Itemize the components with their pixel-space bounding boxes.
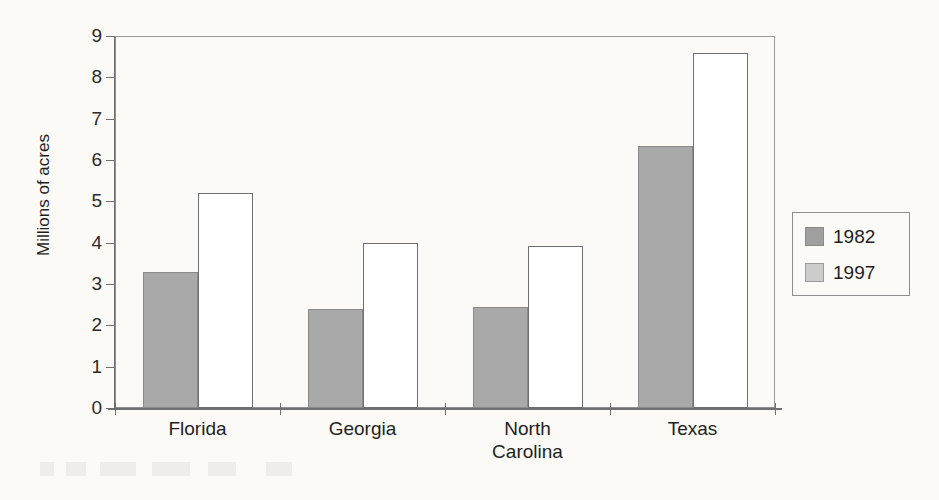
x-axis-label-line: North: [448, 418, 608, 441]
chart-page: Millions of acres 0123456789 FloridaGeor…: [0, 0, 939, 500]
bar-florida-1997: [198, 193, 253, 408]
x-axis-tick: [280, 403, 281, 415]
x-axis-tick: [775, 403, 776, 415]
y-axis-tick-label: 6: [78, 150, 102, 169]
x-axis-tick: [610, 403, 611, 415]
bar-texas-1982: [638, 146, 693, 408]
y-axis-tick: [106, 36, 115, 37]
x-axis-label-florida: Florida: [118, 418, 278, 441]
legend-label: 1997: [833, 263, 875, 282]
bar-north-carolina-1997: [528, 246, 583, 408]
bar-georgia-1997: [363, 243, 418, 408]
y-axis-tick-label: 0: [78, 398, 102, 417]
y-axis-tick: [106, 201, 115, 202]
y-axis-tick: [106, 367, 115, 368]
y-axis-tick-label: 8: [78, 67, 102, 86]
dark-gray-swatch: [805, 227, 824, 246]
y-axis-tick: [106, 325, 115, 326]
legend-item-1982[interactable]: 1982: [805, 225, 875, 247]
y-axis-tick-label: 1: [78, 357, 102, 376]
x-axis-label-georgia: Georgia: [283, 418, 443, 441]
y-axis-tick: [106, 77, 115, 78]
x-axis-label-line: Florida: [118, 418, 278, 441]
y-axis-title: Millions of acres: [34, 95, 54, 295]
y-axis-tick-label: 4: [78, 233, 102, 252]
y-axis-tick-label: 5: [78, 191, 102, 210]
y-axis-tick: [106, 243, 115, 244]
light-gray-swatch: [805, 263, 824, 282]
y-axis-tick: [106, 284, 115, 285]
y-axis-tick-label: 7: [78, 109, 102, 128]
x-axis-tick: [445, 403, 446, 415]
x-axis-label-texas: Texas: [613, 418, 773, 441]
x-axis-label-north-carolina: NorthCarolina: [448, 418, 608, 464]
legend-label: 1982: [833, 227, 875, 246]
x-axis-label-line: Georgia: [283, 418, 443, 441]
bar-florida-1982: [143, 272, 198, 408]
legend: 19821997: [792, 212, 910, 296]
bar-texas-1997: [693, 53, 748, 408]
x-axis-tick: [115, 403, 116, 415]
y-axis-tick-label: 3: [78, 274, 102, 293]
y-axis-tick-labels: 0123456789: [74, 0, 102, 500]
scan-artifact: [40, 462, 340, 476]
bar-north-carolina-1982: [473, 307, 528, 408]
y-axis-tick-label: 2: [78, 315, 102, 334]
y-axis-tick: [106, 408, 115, 409]
x-axis-label-line: Carolina: [448, 441, 608, 464]
x-axis-label-line: Texas: [613, 418, 773, 441]
bar-georgia-1982: [308, 309, 363, 408]
y-axis-tick-label: 9: [78, 26, 102, 45]
y-axis-tick: [106, 119, 115, 120]
y-axis-tick: [106, 160, 115, 161]
legend-item-1997[interactable]: 1997: [805, 261, 875, 283]
